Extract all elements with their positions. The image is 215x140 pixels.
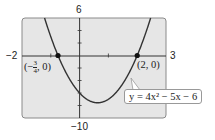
equation-callout: y = 4x² − 5x − 6: [124, 89, 202, 104]
x-min-label: −2: [6, 50, 17, 61]
right-intercept-label: (2, 0): [137, 59, 160, 70]
equation-label: y = 4x² − 5x − 6: [129, 91, 197, 102]
y-min-label: −10: [71, 121, 88, 132]
y-max-label: 6: [76, 4, 82, 15]
x-max-label: 3: [170, 50, 176, 61]
left-intercept-label: (−34, 0): [24, 60, 51, 75]
intercept-point: [55, 53, 60, 58]
intercept-point: [135, 53, 140, 58]
